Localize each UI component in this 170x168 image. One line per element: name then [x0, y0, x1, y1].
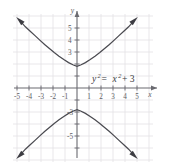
x-tick-label: -3 — [38, 93, 44, 101]
x-axis-label: x — [147, 90, 152, 99]
equation-x-symbol: x — [112, 73, 118, 84]
x-tick-label: 3 — [111, 93, 115, 101]
x-axis-arrow-icon — [151, 86, 157, 91]
x-tick-label: 5 — [135, 93, 139, 101]
x-tick-label: 1 — [87, 93, 91, 101]
y-axis-label: y — [70, 6, 75, 15]
equation-plus-constant: + 3 — [122, 73, 135, 84]
graph-figure: -5 -4 -3 -2 -1 1 2 3 4 5 5 4 3 -3 -5 x y — [0, 0, 170, 168]
x-tick-label: 4 — [123, 93, 127, 101]
y-tick-label: 3 — [68, 49, 72, 57]
x-tick-label: -2 — [50, 93, 56, 101]
y-axis-arrow-icon — [75, 11, 80, 17]
x-tick-label: 2 — [99, 93, 103, 101]
coordinate-plane-svg: -5 -4 -3 -2 -1 1 2 3 4 5 5 4 3 -3 -5 x y — [0, 0, 170, 168]
x-tick-label: -1 — [62, 93, 68, 101]
equation-y-exponent: 2 — [97, 72, 100, 79]
equation-x-exponent: 2 — [118, 72, 121, 79]
x-tick-label: -5 — [14, 93, 20, 101]
equation-y-symbol: y — [91, 73, 97, 84]
x-tick-label: -4 — [26, 93, 32, 101]
y-tick-label: 5 — [68, 25, 72, 33]
y-tick-label: -5 — [67, 133, 73, 141]
equation-annotation: y 2 = x 2 + 3 — [91, 72, 135, 84]
y-tick-label: 4 — [68, 37, 72, 45]
equation-equals-sign: = — [101, 73, 106, 84]
y-tick-labels: 5 4 3 -3 -5 — [67, 25, 73, 141]
